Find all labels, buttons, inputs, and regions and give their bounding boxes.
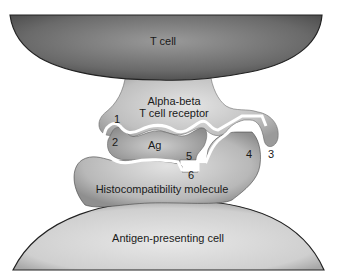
mhc-label: Histocompatibility molecule — [96, 183, 229, 195]
receptor-label-line2: T cell receptor — [139, 107, 209, 119]
receptor-label-line1: Alpha-beta — [147, 95, 200, 107]
t-cell-label: T cell — [150, 35, 176, 47]
contact-number-6: 6 — [188, 169, 194, 181]
antigen-label: Ag — [148, 139, 161, 151]
contact-number-4: 4 — [246, 148, 252, 160]
contact-number-5: 5 — [186, 150, 192, 162]
apc-label: Antigen-presenting cell — [112, 232, 224, 244]
contact-number-1: 1 — [114, 113, 120, 125]
contact-number-3: 3 — [268, 148, 274, 160]
contact-number-2: 2 — [112, 136, 118, 148]
t-cell-shape — [10, 15, 322, 80]
